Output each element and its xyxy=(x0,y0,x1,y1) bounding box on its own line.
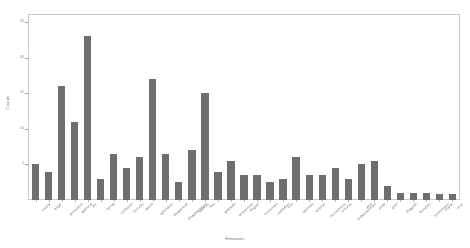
bar xyxy=(45,172,52,200)
bar xyxy=(97,179,104,200)
x-tick-label: optimism xyxy=(302,202,315,214)
x-tick-mark xyxy=(257,200,258,202)
x-tick-mark xyxy=(439,200,440,202)
x-tick-mark xyxy=(413,200,414,202)
bar xyxy=(279,179,286,200)
x-tick-mark xyxy=(309,200,310,202)
x-tick-mark xyxy=(62,200,63,202)
chart-container: 510152025 Counts neutralangerannoyanceap… xyxy=(0,0,470,248)
bar xyxy=(136,157,143,200)
x-tick-label: anger xyxy=(53,202,62,211)
bar xyxy=(306,175,313,200)
x-tick-mark xyxy=(179,200,180,202)
y-axis-tick: 5 xyxy=(0,164,28,165)
y-axis-title: Counts xyxy=(5,83,10,123)
bar xyxy=(123,168,130,200)
x-tick-label: pride xyxy=(378,202,386,210)
x-tick-label: joy xyxy=(91,202,97,208)
bar xyxy=(84,36,91,200)
x-tick-mark xyxy=(36,200,37,202)
x-tick-mark xyxy=(192,200,193,202)
bar xyxy=(149,79,156,200)
x-tick-mark xyxy=(114,200,115,202)
x-tick-mark xyxy=(231,200,232,202)
bar xyxy=(227,161,234,200)
bar xyxy=(384,186,391,200)
x-tick-mark xyxy=(166,200,167,202)
x-tick-mark xyxy=(88,200,89,202)
x-tick-mark xyxy=(296,200,297,202)
x-tick-mark xyxy=(400,200,401,202)
x-tick-label: disgust2 xyxy=(406,202,418,214)
bar xyxy=(162,154,169,200)
y-axis-tick: 20 xyxy=(0,58,28,59)
x-tick-mark xyxy=(348,200,349,202)
x-tick-mark xyxy=(335,200,336,202)
x-tick-mark xyxy=(49,200,50,202)
x-tick-label: boredom xyxy=(419,202,432,214)
bar xyxy=(397,193,404,200)
x-tick-label: gratitude xyxy=(223,202,236,214)
bar xyxy=(371,161,378,200)
x-tick-label: curiosity xyxy=(132,202,144,214)
x-tick-label: sadness xyxy=(197,202,209,214)
bar xyxy=(32,164,39,200)
x-tick-mark xyxy=(452,200,453,202)
y-axis-tick: 10 xyxy=(0,129,28,130)
x-tick-mark xyxy=(140,200,141,202)
x-axis-tick-labels: neutralangerannoyanceapprovaljoycaringco… xyxy=(29,202,459,236)
x-tick-label: grief xyxy=(391,202,399,210)
x-tick-mark xyxy=(127,200,128,202)
x-tick-mark xyxy=(283,200,284,202)
bars-group xyxy=(29,15,459,200)
x-axis-title: Emotions xyxy=(0,236,470,241)
bar xyxy=(71,122,78,200)
x-tick-mark xyxy=(322,200,323,202)
x-tick-mark xyxy=(153,200,154,202)
x-tick-label: surprise xyxy=(314,202,326,213)
y-tick-label: 15 xyxy=(20,89,24,96)
x-tick-mark xyxy=(374,200,375,202)
bar xyxy=(319,175,326,200)
x-tick-label: envy xyxy=(456,202,464,210)
x-tick-label: neutral xyxy=(40,202,51,212)
bar xyxy=(292,157,299,200)
x-tick-mark xyxy=(101,200,102,202)
x-tick-mark xyxy=(361,200,362,202)
x-tick-label: caring xyxy=(105,202,115,211)
x-tick-label: fear xyxy=(208,202,215,209)
x-tick-label: excitement xyxy=(263,202,278,216)
bar xyxy=(423,193,430,200)
bar xyxy=(266,182,273,200)
x-tick-mark xyxy=(244,200,245,202)
bar xyxy=(175,182,182,200)
bar xyxy=(332,168,339,200)
x-tick-label: desire xyxy=(144,202,154,211)
x-tick-mark xyxy=(218,200,219,202)
y-tick-label: 20 xyxy=(20,54,24,61)
y-axis-tick: 25 xyxy=(0,22,28,23)
y-tick-label: 10 xyxy=(20,125,24,132)
bar xyxy=(240,175,247,200)
x-tick-label: confusion xyxy=(120,202,134,215)
bar xyxy=(345,179,352,200)
bar xyxy=(201,93,208,200)
bar xyxy=(410,193,417,200)
y-tick-label: 25 xyxy=(20,18,24,25)
x-tick-mark xyxy=(387,200,388,202)
bar xyxy=(58,86,65,200)
y-tick-label: 5 xyxy=(22,160,24,167)
bar xyxy=(110,154,117,200)
x-tick-mark xyxy=(270,200,271,202)
bar xyxy=(253,175,260,200)
y-axis: 510152025 xyxy=(0,0,28,248)
bar xyxy=(188,150,195,200)
x-tick-mark xyxy=(426,200,427,202)
bar xyxy=(358,164,365,200)
bar xyxy=(214,172,221,200)
x-tick-mark xyxy=(75,200,76,202)
x-tick-label: disapproval xyxy=(172,202,188,217)
x-tick-mark xyxy=(205,200,206,202)
